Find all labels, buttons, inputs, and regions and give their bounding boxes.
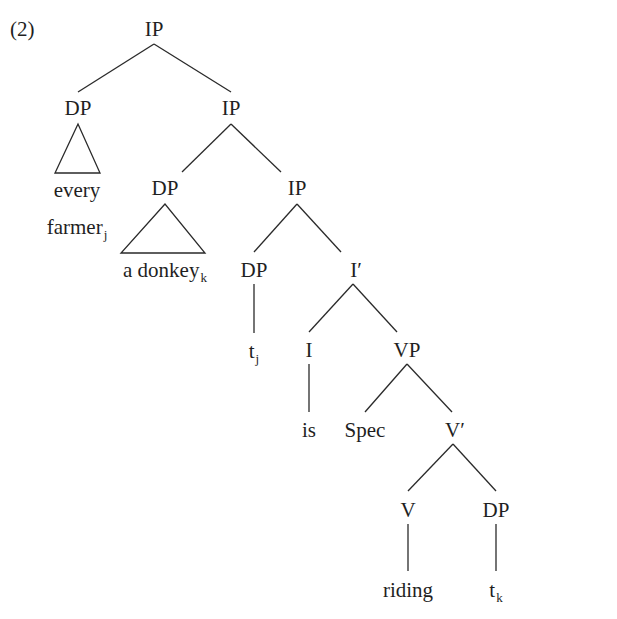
branch-ip-root-to-dp-1 xyxy=(78,44,154,92)
branch-v-bar-to-v-head xyxy=(408,444,453,491)
node-i-head: I xyxy=(306,338,313,362)
node-is: is xyxy=(302,418,316,442)
branch-vp-to-v-bar xyxy=(407,364,452,412)
branch-i-bar-to-i-head xyxy=(309,284,353,332)
node-subscript: k xyxy=(496,590,503,605)
triangle-dp-1 xyxy=(55,124,100,173)
node-label: IP xyxy=(145,17,164,41)
branch-vp-to-spec xyxy=(365,364,407,412)
node-trace-k: tk xyxy=(489,578,503,605)
node-subscript: k xyxy=(200,270,207,285)
branch-ip-2-to-dp-2 xyxy=(182,124,231,172)
node-v-head: V xyxy=(400,498,415,522)
node-vp: VP xyxy=(394,338,421,362)
node-spec: Spec xyxy=(345,418,386,442)
node-v-bar: V′ xyxy=(445,418,465,442)
node-label: VP xyxy=(394,338,421,362)
node-label: Spec xyxy=(345,418,386,442)
example-number: (2) xyxy=(10,17,35,41)
node-label: a donkey xyxy=(123,258,200,282)
node-subscript: j xyxy=(255,351,260,366)
node-trace-j: tj xyxy=(249,339,259,366)
node-label: I′ xyxy=(350,258,362,282)
node-riding: riding xyxy=(383,578,434,602)
branch-ip-3-to-i-bar xyxy=(297,204,341,252)
node-label: farmer xyxy=(47,215,103,239)
tree-edges xyxy=(78,44,496,571)
node-ip-root: IP xyxy=(145,17,164,41)
node-ip-3: IP xyxy=(288,176,307,200)
node-dp-3: DP xyxy=(241,258,268,282)
node-donkey: a donkeyk xyxy=(123,258,207,285)
node-subscript: j xyxy=(103,227,108,242)
node-label: DP xyxy=(241,258,268,282)
tree-nodes: IPDPIPeveryfarmerjDPIPa donkeykDPI′tjIVP… xyxy=(47,17,510,605)
node-farmer: farmerj xyxy=(47,215,108,242)
node-label: t xyxy=(489,578,495,602)
node-label: t xyxy=(249,339,255,363)
node-label: riding xyxy=(383,578,434,602)
node-dp-4: DP xyxy=(483,498,510,522)
node-label: I xyxy=(306,338,313,362)
node-label: V xyxy=(400,498,415,522)
branch-ip-3-to-dp-3 xyxy=(254,204,297,252)
node-label: is xyxy=(302,418,316,442)
node-every: every xyxy=(54,178,101,202)
node-label: DP xyxy=(65,96,92,120)
node-ip-2: IP xyxy=(222,96,241,120)
node-i-bar: I′ xyxy=(350,258,362,282)
triangle-dp-2 xyxy=(121,204,205,253)
node-dp-1: DP xyxy=(65,96,92,120)
node-label: DP xyxy=(152,176,179,200)
node-label: V′ xyxy=(445,418,465,442)
node-label: DP xyxy=(483,498,510,522)
branch-ip-2-to-ip-3 xyxy=(231,124,281,172)
syntax-tree-diagram: (2) IPDPIPeveryfarmerjDPIPa donkeykDPI′t… xyxy=(0,0,617,619)
branch-i-bar-to-vp xyxy=(353,284,397,332)
branch-v-bar-to-dp-4 xyxy=(453,444,496,491)
node-label: IP xyxy=(222,96,241,120)
branch-ip-root-to-ip-2 xyxy=(154,44,231,92)
node-label: IP xyxy=(288,176,307,200)
node-dp-2: DP xyxy=(152,176,179,200)
node-label: every xyxy=(54,178,101,202)
